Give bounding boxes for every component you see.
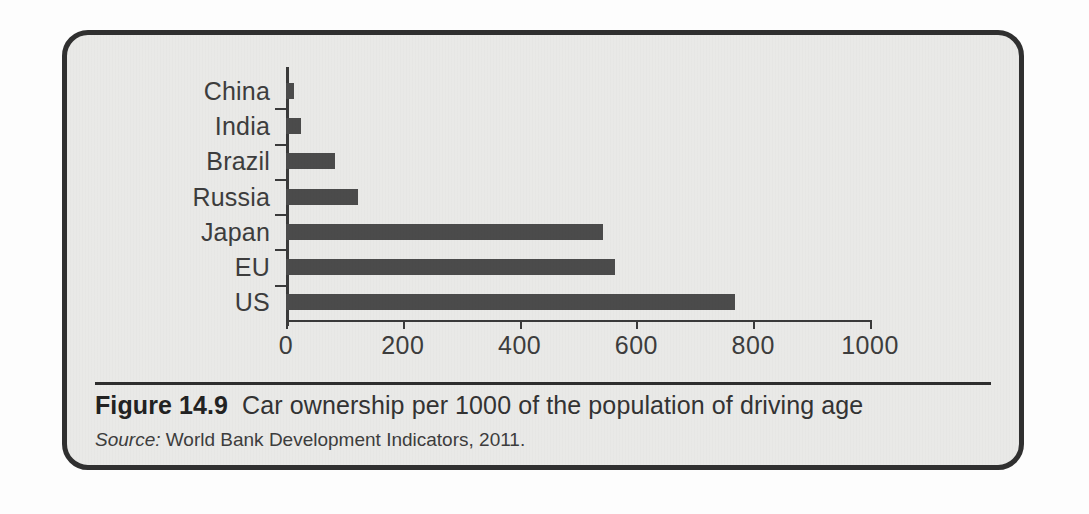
x-axis-tick (870, 320, 872, 329)
figure-source: Source: World Bank Development Indicator… (95, 429, 525, 451)
x-axis-tick (753, 320, 755, 329)
x-axis-tick-label: 400 (498, 331, 541, 360)
category-label-russia: Russia (192, 189, 270, 205)
x-axis-tick-label: 200 (381, 331, 424, 360)
x-axis-tick (636, 320, 638, 329)
y-axis-tick (275, 179, 286, 181)
category-label-india: India (215, 118, 270, 134)
source-label: Source: (95, 429, 160, 450)
category-label-japan: Japan (201, 224, 270, 240)
figure-caption: Figure 14.9Car ownership per 1000 of the… (95, 391, 863, 420)
y-axis-tick (275, 108, 286, 110)
caption-divider (95, 382, 991, 385)
y-axis-tick (275, 285, 286, 287)
y-axis-tick (275, 214, 286, 216)
category-label-eu: EU (235, 259, 270, 275)
x-axis-line (286, 320, 870, 322)
x-axis-tick (403, 320, 405, 329)
bar-japan (286, 224, 603, 240)
x-axis-tick-label: 600 (615, 331, 658, 360)
source-text: World Bank Development Indicators, 2011. (166, 429, 525, 450)
x-axis-tick-label: 0 (279, 331, 293, 360)
plot-area: ChinaIndiaBrazilRussiaJapanEUUS 02004006… (286, 73, 870, 320)
figure-caption-text: Car ownership per 1000 of the population… (242, 391, 863, 419)
x-axis-tick-label: 1000 (841, 331, 899, 360)
bar-us (286, 294, 735, 310)
bar-eu (286, 259, 615, 275)
bar-china (286, 83, 294, 99)
x-axis-tick (520, 320, 522, 329)
bar-chart: ChinaIndiaBrazilRussiaJapanEUUS 02004006… (67, 35, 1019, 365)
x-axis-tick-label: 800 (732, 331, 775, 360)
category-label-brazil: Brazil (206, 153, 270, 169)
bar-brazil (286, 153, 335, 169)
y-axis-tick (275, 249, 286, 251)
figure-panel: ChinaIndiaBrazilRussiaJapanEUUS 02004006… (62, 30, 1024, 470)
figure-number: Figure 14.9 (95, 391, 228, 419)
category-label-china: China (204, 83, 270, 99)
y-axis-tick (275, 144, 286, 146)
bar-india (286, 118, 301, 134)
x-axis-tick (286, 320, 288, 329)
category-label-us: US (235, 294, 270, 310)
bar-russia (286, 189, 358, 205)
